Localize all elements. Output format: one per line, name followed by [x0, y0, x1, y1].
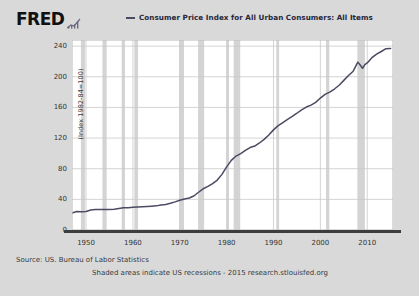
x-tick-label: 2000 — [311, 239, 329, 247]
legend-swatch — [126, 17, 135, 19]
y-tick-label: 160 — [54, 103, 67, 111]
y-tick-label: 240 — [54, 42, 67, 50]
mini-bar-chart-glyph — [67, 14, 81, 25]
y-tick-label: 200 — [54, 73, 67, 81]
plot-area: (Index 1982-84=100) 24020016012080400 19… — [72, 40, 393, 230]
legend-series-label: Consumer Price Index for All Urban Consu… — [139, 13, 373, 22]
chart-canvas — [72, 40, 393, 230]
chart-legend: Consumer Price Index for All Urban Consu… — [126, 13, 373, 22]
plot-wrapper: (Index 1982-84=100) 24020016012080400 19… — [8, 32, 411, 254]
fred-chart-image: FRED Consumer Price Index for All Urban … — [0, 0, 419, 296]
x-tick-label: 1950 — [77, 239, 95, 247]
chart-figure: FRED Consumer Price Index for All Urban … — [8, 6, 411, 290]
fred-logo: FRED — [16, 10, 64, 28]
chart-footer: Source: US. Bureau of Labor Statistics S… — [8, 256, 411, 288]
source-line: Source: US. Bureau of Labor Statistics — [16, 256, 149, 264]
y-tick-label: 120 — [54, 134, 67, 142]
x-tick-label: 1970 — [171, 239, 189, 247]
x-tick-label: 1980 — [218, 239, 236, 247]
x-tick-label: 1960 — [124, 239, 142, 247]
y-tick-label: 40 — [58, 195, 67, 203]
y-axis-label: (Index 1982-84=100) — [77, 49, 85, 159]
x-tick-label: 1990 — [265, 239, 283, 247]
y-tick-label: 80 — [58, 165, 67, 173]
chart-header: FRED Consumer Price Index for All Urban … — [8, 6, 411, 32]
x-tick-label: 2010 — [358, 239, 376, 247]
recession-note-line: Shaded areas indicate US recessions - 20… — [92, 269, 328, 277]
x-axis-baseline — [64, 230, 401, 233]
